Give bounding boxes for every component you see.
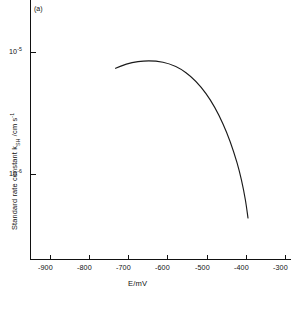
panel-a-tag: (a) xyxy=(34,5,43,12)
figure-root: (a) 10-5 10-6 -900 -800 -700 -600 -500 -… xyxy=(0,0,296,322)
x-tick-label--400: -400 xyxy=(234,264,249,271)
panel-b-partial: 600 (b) xyxy=(0,295,296,322)
x-tick-label--700: -700 xyxy=(116,264,131,271)
y-axis-title: Standard rate constant kSH /cm s-1 xyxy=(9,113,21,230)
x-tick-label--900: -900 xyxy=(38,264,53,271)
x-tick-label--800: -800 xyxy=(77,264,92,271)
y-tick-label-1e-5: 10-5 xyxy=(9,47,22,56)
x-tick-label--600: -600 xyxy=(155,264,170,271)
x-axis-title: E/mV xyxy=(128,279,147,288)
panel-a: (a) 10-5 10-6 -900 -800 -700 -600 -500 -… xyxy=(0,0,296,295)
plot-canvas-a xyxy=(0,0,296,295)
data-curve xyxy=(116,61,248,218)
x-tick-label--300: -300 xyxy=(273,264,288,271)
x-tick-label--500: -500 xyxy=(195,264,210,271)
